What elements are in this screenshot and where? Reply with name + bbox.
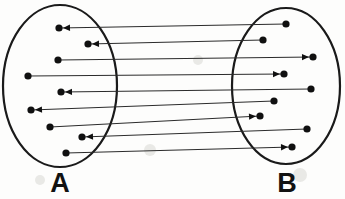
diagram-canvas: A B (0, 0, 345, 199)
set-a-node-dot (46, 123, 53, 130)
set-b-node-dot (288, 143, 295, 150)
set-mapping-svg: A B (0, 0, 345, 199)
set-b-node-dot (309, 53, 316, 60)
set-b-node-dot (256, 112, 263, 119)
set-b-node-dot (303, 125, 310, 132)
set-b-node-dot (259, 36, 266, 43)
set-b-node-dot (280, 70, 287, 77)
set-b-node-dot (282, 20, 289, 27)
set-b-node-dot (307, 85, 314, 92)
paper-speck (193, 55, 203, 65)
set-a-node-dot (84, 40, 91, 47)
paper-speck (144, 144, 156, 156)
set-a-node-dot (27, 106, 34, 113)
set-a-node-dot (62, 149, 69, 156)
paper-speck (35, 175, 45, 185)
set-a-label: A (50, 168, 70, 198)
set-a-node-dot (24, 72, 31, 79)
set-b-node-dot (270, 97, 277, 104)
set-b-label: B (277, 168, 297, 198)
set-a-node-dot (54, 56, 61, 63)
set-a-node-dot (57, 88, 64, 95)
set-a-node-dot (78, 133, 85, 140)
set-a-node-dot (55, 24, 62, 31)
